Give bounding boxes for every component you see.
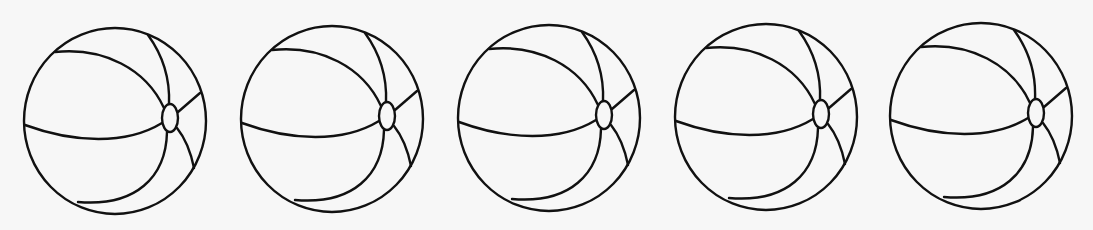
seam-bottom — [729, 128, 818, 199]
valve-cap — [379, 102, 395, 130]
valve-cap — [596, 101, 612, 129]
seam-bottom — [295, 130, 384, 201]
seam-right-upper — [829, 89, 851, 108]
seam-right-lower — [177, 128, 194, 168]
beach-ball-1-icon — [24, 27, 208, 217]
seam-right-lower — [611, 125, 628, 165]
seam-left — [676, 119, 813, 135]
beach-ball-row — [0, 0, 1093, 230]
seam-right-lower — [394, 126, 411, 166]
beach-ball-4-icon — [675, 23, 859, 213]
seam-left — [242, 121, 379, 137]
seam-right-upper — [395, 91, 417, 110]
seam-bottom — [944, 127, 1033, 198]
valve-cap — [162, 104, 178, 132]
seam-right-upper — [1044, 88, 1066, 107]
seam-top-left — [706, 47, 815, 104]
beach-ball-3-icon — [458, 24, 642, 214]
valve-cap — [813, 100, 829, 128]
seam-left — [459, 120, 596, 136]
valve-cap — [1028, 99, 1044, 127]
seam-left — [25, 123, 162, 139]
seam-right-upper — [612, 90, 634, 109]
beach-ball-5-icon — [890, 22, 1074, 212]
seam-top-left — [55, 51, 164, 108]
seam-bottom — [512, 129, 601, 200]
seam-right-lower — [1043, 123, 1060, 163]
seam-top-left — [489, 48, 598, 105]
seam-right-upper — [178, 93, 200, 112]
seam-left — [891, 118, 1028, 134]
seam-top-left — [272, 49, 381, 106]
seam-right-lower — [828, 124, 845, 164]
beach-ball-2-icon — [241, 25, 425, 215]
seam-top-left — [921, 46, 1030, 103]
seam-bottom — [78, 132, 167, 203]
